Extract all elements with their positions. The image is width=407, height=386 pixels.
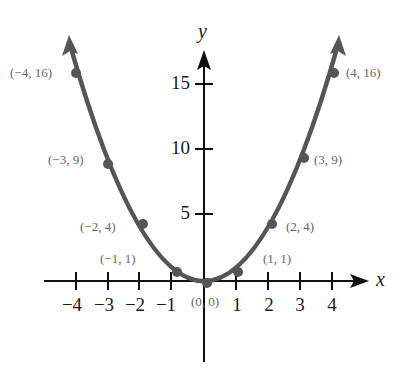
y-axis-label: y [198,20,207,43]
point-label: (−1, 1) [100,251,136,267]
x-tick-label: −3 [94,294,114,316]
x-tick-label: 4 [327,294,337,316]
point-label: (4, 16) [346,65,381,81]
point-label: (1, 1) [263,251,291,267]
point-label: (0, 0) [191,294,219,310]
point-label: (−3, 9) [48,152,84,168]
x-tick-label: 1 [232,294,242,316]
y-tick-label: 15 [160,72,190,94]
x-axis-label: x [376,268,385,291]
parabola-graph: y x −4 −3 −2 −1 1 2 3 4 15 10 5 (−4, 16)… [0,0,407,386]
x-tick-label: −1 [156,294,176,316]
x-tick-label: −4 [62,294,82,316]
point-label: (2, 4) [286,219,314,235]
point-label: (−2, 4) [80,219,116,235]
point-label: (3, 9) [314,152,342,168]
x-tick-label: −2 [125,294,145,316]
graph-canvas [0,0,407,386]
x-tick-label: 2 [264,294,274,316]
x-tick-label: 3 [295,294,305,316]
y-tick-label: 10 [160,137,190,159]
y-tick-label: 5 [160,202,190,224]
point-label: (−4, 16) [10,65,52,81]
